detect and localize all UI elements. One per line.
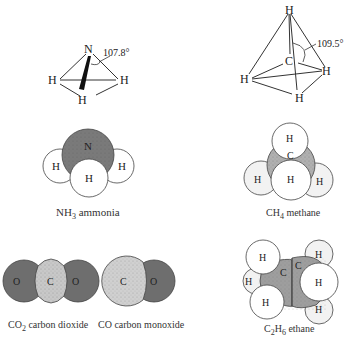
co-model: C O — [102, 256, 175, 306]
molecule-diagram: N H H H 107.8° H C H H H 109.5° N H H H — [0, 0, 348, 347]
svg-text:H: H — [52, 160, 60, 172]
ammonia-model: N H H H — [43, 129, 134, 197]
atom-n: N — [84, 42, 93, 56]
svg-text:O: O — [150, 276, 157, 287]
svg-text:H: H — [316, 176, 323, 187]
svg-text:H: H — [259, 252, 266, 263]
svg-text:H: H — [315, 249, 322, 260]
svg-text:H: H — [85, 172, 93, 184]
methane-structure: H C H H H 109.5° — [240, 3, 344, 105]
svg-text:H: H — [315, 304, 322, 315]
svg-text:H: H — [287, 174, 294, 185]
svg-text:N: N — [84, 140, 92, 152]
co2-model: O C O — [3, 259, 99, 303]
svg-text:C: C — [295, 260, 302, 271]
methane-model: H C H H H — [244, 123, 333, 200]
svg-text:H: H — [315, 277, 322, 288]
caption-methane: CH4 methane — [266, 207, 320, 221]
svg-text:H: H — [245, 276, 252, 287]
atom-h: H — [120, 73, 129, 87]
svg-text:C: C — [120, 276, 127, 287]
svg-text:H: H — [254, 174, 261, 185]
svg-text:H: H — [286, 133, 293, 144]
caption-ethane: C2H6 ethane — [264, 323, 315, 337]
atom-h: H — [48, 73, 57, 87]
angle-arc — [91, 62, 100, 65]
svg-text:O: O — [13, 276, 20, 287]
svg-text:H: H — [262, 297, 269, 308]
svg-text:C: C — [287, 150, 294, 161]
atom-h: H — [240, 72, 249, 86]
atom-c: C — [285, 54, 293, 68]
atom-h: H — [322, 64, 331, 78]
angle-arc — [293, 43, 305, 62]
svg-text:C: C — [47, 276, 54, 287]
caption-co: CO carbon monoxide — [98, 319, 184, 330]
bond-angle-label: 107.8° — [103, 47, 130, 58]
bond-angle-label: 109.5° — [317, 38, 344, 49]
caption-ammonia: NH3 ammonia — [56, 206, 120, 221]
ethane-model: H C C H H H H H — [243, 240, 338, 324]
svg-text:H: H — [118, 160, 126, 172]
atom-h: H — [295, 91, 304, 105]
wedge-bond — [79, 56, 91, 90]
svg-text:O: O — [72, 276, 79, 287]
ammonia-structure: N H H H 107.8° — [48, 42, 130, 107]
caption-co2: CO2 carbon dioxide — [8, 319, 88, 333]
svg-text:C: C — [280, 267, 287, 278]
atom-h: H — [78, 93, 87, 107]
atom-h: H — [285, 3, 294, 17]
